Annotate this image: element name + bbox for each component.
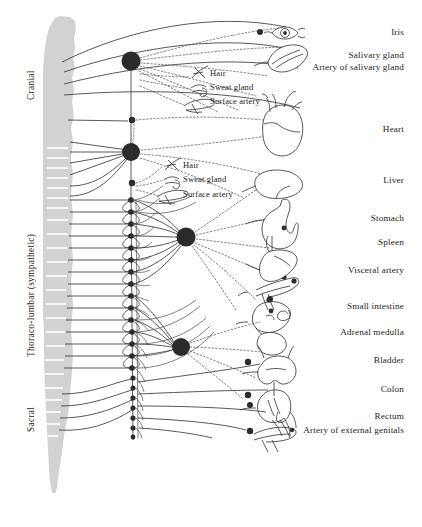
organ-label-small-intestine: Small intestine — [347, 301, 404, 311]
splanchnic-nerves-to-inferior-mesenteric — [135, 296, 174, 356]
chain-ganglion-dots — [128, 197, 135, 439]
organ-label-liver: Liver — [383, 175, 404, 185]
small-intestine-shape — [236, 297, 291, 338]
visceral-artery-shape — [238, 278, 299, 314]
postganglionic-fibers-inferior-mesenteric — [188, 322, 262, 398]
inline-label-sweat-gland-upper: Sweat gland — [210, 82, 253, 92]
organ-label-colon: Colon — [381, 384, 404, 394]
gray-rami-skin-fibers — [134, 186, 163, 438]
sweat-gland-glyph-lower — [164, 177, 180, 189]
organ-label-bladder: Bladder — [374, 355, 404, 365]
stomach-shape — [246, 199, 298, 252]
organ-label-rectum: Rectum — [375, 411, 404, 421]
region-label-sacral: Sacral — [26, 407, 36, 432]
celiac-ganglion — [177, 228, 196, 247]
sacral-parasympathetic-outflow — [138, 364, 268, 438]
spinal-cord — [43, 16, 76, 494]
organ-label-salivary-gland: Salivary gland — [349, 50, 404, 60]
organ-label-stomach: Stomach — [371, 213, 404, 223]
inline-label-surface-artery-upper: Surface artery — [210, 96, 260, 106]
spleen-shape — [246, 250, 297, 282]
organ-label-iris: Iris — [391, 27, 404, 37]
organ-label-artery-of-external-genitals: Artery of external genitals — [303, 425, 404, 435]
organ-label-spleen: Spleen — [378, 237, 404, 247]
inferior-mesenteric-ganglion — [172, 338, 190, 356]
inline-label-hair-upper: Hair — [210, 68, 226, 78]
diagram-canvas: .sl { stroke:#3a3a3a; stroke-width:0.85;… — [0, 0, 422, 527]
hair-glyph-lower — [165, 158, 181, 170]
liver-shape — [242, 170, 303, 199]
organ-label-visceral-artery: Visceral artery — [348, 265, 404, 275]
inline-label-surface-artery-lower: Surface artery — [183, 189, 233, 199]
autonomic-nervous-system-figure: .sl { stroke:#3a3a3a; stroke-width:0.85;… — [0, 0, 422, 527]
organ-label-artery-of-salivary-gland: Artery of salivary gland — [312, 62, 404, 72]
hair-glyph-upper — [192, 66, 208, 78]
inline-label-hair-lower: Hair — [183, 160, 199, 170]
postganglionic-fibers-celiac — [192, 182, 272, 310]
region-label-cranial: Cranial — [26, 70, 36, 100]
inline-label-sweat-gland-lower: Sweat gland — [183, 174, 226, 184]
cranial-outflow-fibers — [62, 21, 300, 108]
stellate-ganglion — [122, 143, 140, 161]
heart-shape — [262, 92, 303, 156]
region-label-thoraco-lumbar: Thoraco-lumbar (sympathetic) — [26, 234, 36, 357]
organ-label-adrenal-medulla: Adrenal medulla — [340, 327, 404, 337]
organ-label-heart: Heart — [383, 124, 404, 134]
salivary-gland-shape — [254, 45, 308, 72]
preganglionic-fibers-upper — [68, 120, 128, 196]
superior-cervical-ganglion — [122, 52, 141, 71]
